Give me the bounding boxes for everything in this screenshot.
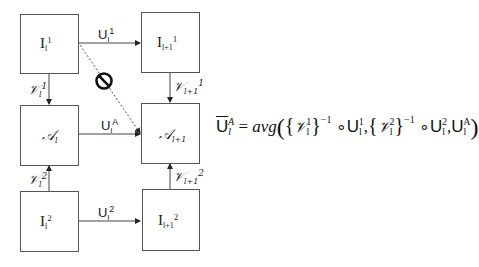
edge-label-v2-right: 𝒱l+12	[173, 169, 204, 186]
edge-label-u1: Ul1	[98, 27, 114, 44]
edge-label-v1-right: 𝒱l+11	[173, 79, 204, 96]
node-image-l-1: Il1	[20, 14, 79, 74]
average-transform-equation: UlA = avg({𝒱l1}−1 ∘Ul1,{𝒱l2}−1 ∘Ul2,UlA)	[216, 114, 479, 141]
node-image-l1-1: Il+11	[141, 12, 200, 73]
prohibited-icon	[97, 74, 112, 89]
node-image-l-2: Il2	[20, 191, 79, 252]
edge-label-u2: Ul2	[98, 205, 114, 222]
node-atlas-l: 𝒜l	[20, 105, 79, 166]
edge-label-v1-left: 𝒱l1	[28, 82, 47, 99]
edge-label-uA: UlA	[101, 118, 118, 135]
node-atlas-l1: 𝒜l+1	[141, 103, 200, 164]
node-base: 𝒜	[159, 126, 172, 142]
node-image-l1-2: Il+12	[142, 189, 200, 251]
node-base: 𝒜	[42, 127, 55, 143]
edge-label-v2-left: 𝒱l2	[28, 172, 47, 189]
